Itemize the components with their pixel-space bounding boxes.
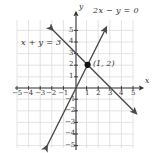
- y-tick-label-4: 4: [69, 38, 73, 45]
- y-tick-label--3: −3: [65, 119, 75, 126]
- x-tick-label--2: −2: [46, 90, 56, 97]
- x-tick-label-4: 4: [119, 90, 123, 97]
- coordinate-plane-svg: [0, 0, 155, 153]
- x-axis-label: x: [145, 77, 149, 85]
- x-tick-label--4: −4: [23, 90, 33, 97]
- x-tick-label-1: 1: [85, 90, 89, 97]
- y-tick-label-5: 5: [69, 27, 73, 34]
- graph-figure: y x 2x − y = 0 x + y = 3 (1, 2) −5 −4 −3…: [0, 0, 155, 153]
- x-tick-label-2: 2: [96, 90, 100, 97]
- x-tick-label--3: −3: [35, 90, 45, 97]
- y-tick-label--2: −2: [65, 107, 75, 114]
- equation-label-line-a: x + y = 3: [21, 39, 61, 47]
- y-tick-label--1: −1: [65, 96, 75, 103]
- intersection-point-label: (1, 2): [93, 60, 115, 68]
- y-tick-label-1: 1: [69, 73, 73, 80]
- intersection-point-marker: [85, 62, 91, 68]
- x-tick-label-5: 5: [131, 90, 135, 97]
- x-tick-label--5: −5: [12, 90, 22, 97]
- y-tick-label-3: 3: [69, 50, 73, 57]
- y-axis-label: y: [79, 3, 83, 11]
- equation-label-line-b: 2x − y = 0: [93, 7, 139, 15]
- y-tick-label-2: 2: [69, 61, 73, 68]
- x-tick-label-3: 3: [108, 90, 112, 97]
- y-tick-label--4: −4: [65, 130, 75, 137]
- y-tick-label--5: −5: [65, 142, 75, 149]
